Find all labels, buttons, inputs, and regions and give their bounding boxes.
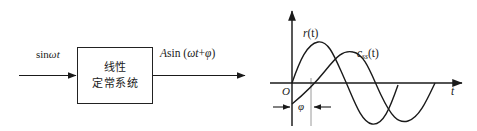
system-block[interactable]: 线性 定常系统	[77, 47, 153, 104]
response-plot-canvas	[255, 0, 477, 131]
x-axis-label: t	[451, 86, 454, 98]
output-sin-text: sin	[167, 47, 180, 59]
input-signal-label: sinωt	[36, 49, 60, 60]
curve-label-input: r(t)	[303, 28, 318, 40]
system-block-line1: 线性	[104, 60, 127, 76]
figure-root: sinωt 线性 定常系统 Asin (ωt+φ)	[0, 0, 477, 131]
curve-label-output: css(t)	[357, 48, 379, 60]
input-t-symbol: t	[57, 48, 60, 60]
response-plot: r(t) css(t) O t φ	[255, 0, 477, 131]
input-omega-symbol: ω	[49, 48, 57, 60]
output-amplitude-symbol: A	[160, 47, 167, 59]
curve-output-css	[292, 52, 435, 122]
output-close-paren: )	[211, 47, 215, 59]
system-block-text: 线性 定常系统	[78, 48, 152, 103]
system-block-line2: 定常系统	[92, 76, 138, 92]
curve-label-input-arg: (t)	[307, 27, 318, 39]
origin-label: O	[282, 86, 290, 97]
output-signal-label: Asin (ωt+φ)	[160, 48, 215, 60]
phase-shift-label: φ	[298, 101, 304, 112]
block-diagram: sinωt 线性 定常系统 Asin (ωt+φ)	[0, 0, 255, 131]
input-sin-text: sin	[36, 48, 49, 60]
curve-label-output-arg: (t)	[368, 47, 379, 59]
